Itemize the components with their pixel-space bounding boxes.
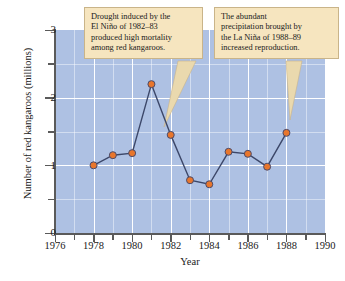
- drought-callout-line-1: El Niño of 1982–83: [91, 22, 197, 32]
- drought-callout-tail: [164, 61, 196, 127]
- data-point-1986: [244, 150, 251, 157]
- data-markers: [90, 81, 290, 188]
- precipitation-callout-line-2: the La Niña of 1988–89: [221, 33, 333, 43]
- data-point-1985: [225, 148, 232, 155]
- data-point-1988: [283, 129, 290, 136]
- data-line: [94, 84, 287, 184]
- precipitation-callout: The abundant precipitation brought by th…: [214, 7, 339, 59]
- data-point-1980: [129, 150, 136, 157]
- data-point-1978: [90, 162, 97, 169]
- callout-tails: [164, 61, 302, 127]
- data-point-1981: [148, 81, 155, 88]
- precipitation-callout-tail: [286, 61, 302, 120]
- data-point-1979: [109, 152, 116, 159]
- precipitation-callout-line-3: increased reproduction.: [221, 43, 333, 53]
- drought-callout-line-3: among red kangaroos.: [91, 43, 197, 53]
- data-point-1982: [167, 131, 174, 138]
- drought-callout-line-2: produced high mortality: [91, 33, 197, 43]
- precipitation-callout-line-0: The abundant: [221, 12, 333, 22]
- drought-callout-line-0: Drought induced by the: [91, 12, 197, 22]
- kangaroo-population-chart: 3 2 1 0 1976 1978 1980 1982 1984 1986 19…: [0, 0, 345, 281]
- data-point-1983: [187, 177, 194, 184]
- data-point-1984: [206, 181, 213, 188]
- data-point-1987: [264, 163, 271, 170]
- drought-callout: Drought induced by the El Niño of 1982–8…: [84, 7, 203, 59]
- precipitation-callout-line-1: precipitation brought by: [221, 22, 333, 32]
